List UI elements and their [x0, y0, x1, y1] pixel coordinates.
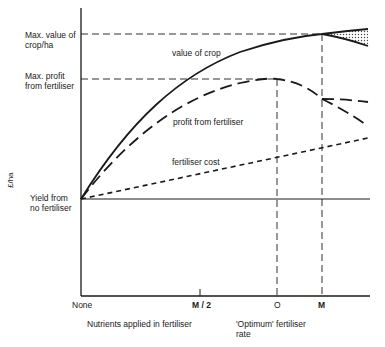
label-value-of-crop: value of crop	[172, 48, 221, 58]
label-max-profit: Max. profitfrom fertiliser	[25, 71, 74, 91]
label-yield-no-fertiliser: Yield fromno fertiliser	[30, 193, 72, 213]
label-max-value: Max. value ofcrop/ha	[25, 30, 76, 50]
tick-label-m: M	[318, 300, 325, 310]
tick-label-o: O	[274, 300, 281, 310]
y-axis-label: £/ha	[6, 172, 15, 188]
label-optimum-rate: 'Optimum' fertiliserrate	[236, 319, 306, 339]
tick-label-none: None	[72, 300, 92, 310]
tick-label-m2: M / 2	[192, 300, 211, 310]
x-axis-label: Nutrients applied in fertiliser	[87, 319, 192, 329]
label-fertiliser-cost: fertiliser cost	[172, 157, 220, 167]
line-fertiliser-cost	[81, 138, 368, 199]
curve-profit-branch	[322, 99, 368, 126]
curve-value-of-crop	[81, 29, 368, 199]
label-profit: profit from fertiliser	[173, 117, 243, 127]
